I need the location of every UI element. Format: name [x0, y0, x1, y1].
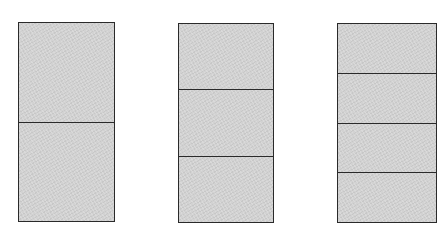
rectangle-part	[338, 123, 436, 173]
rectangle-part	[338, 172, 436, 222]
rectangle-part	[19, 122, 114, 222]
rectangle-part	[338, 73, 436, 123]
rectangle-part	[179, 156, 273, 222]
rectangle-part	[179, 24, 273, 89]
rectangle-part	[179, 89, 273, 155]
rectangle-halves	[18, 22, 115, 222]
rectangle-part	[338, 24, 436, 73]
rectangle-fourths	[337, 23, 437, 223]
rectangle-thirds	[178, 23, 274, 223]
rectangle-part	[19, 23, 114, 122]
